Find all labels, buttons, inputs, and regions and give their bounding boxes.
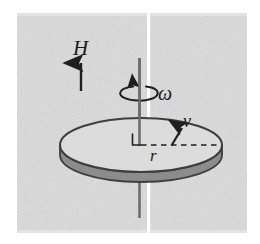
label-field-H: H — [72, 36, 90, 60]
physics-diagram: H ω v r — [0, 0, 260, 244]
figure-container: H ω v r — [0, 0, 260, 244]
label-velocity-v: v — [183, 111, 191, 131]
label-angular-velocity-omega: ω — [158, 82, 172, 104]
label-radius-r: r — [150, 146, 157, 165]
